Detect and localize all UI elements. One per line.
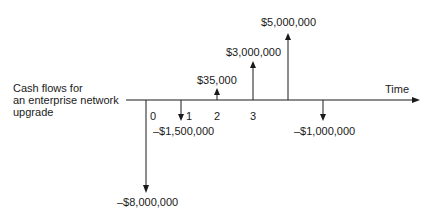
axis-label-time: Time bbox=[385, 83, 409, 95]
period-label-0: 0 bbox=[150, 110, 156, 122]
up-arrow-icon bbox=[214, 88, 220, 95]
down-arrow-icon bbox=[178, 114, 184, 121]
cash-flow-label-1: –$1,500,000 bbox=[153, 125, 214, 137]
cash-flow-label-2: $35,000 bbox=[197, 74, 237, 86]
cash-flow-label-5: –$1,000,000 bbox=[294, 125, 355, 137]
cash-flow-label-4: $5,000,000 bbox=[261, 16, 316, 28]
period-label-3: 3 bbox=[250, 110, 256, 122]
up-arrow-icon bbox=[285, 33, 291, 40]
down-arrow-icon bbox=[143, 185, 149, 193]
period-label-2: 2 bbox=[214, 110, 220, 122]
down-arrow-icon bbox=[320, 114, 326, 121]
up-arrow-icon bbox=[250, 61, 256, 68]
period-label-1: 1 bbox=[186, 110, 192, 122]
cash-flow-label-3: $3,000,000 bbox=[226, 46, 281, 58]
cash-flow-label-0: –$8,000,000 bbox=[117, 196, 178, 208]
axis-arrow-icon bbox=[412, 97, 420, 103]
